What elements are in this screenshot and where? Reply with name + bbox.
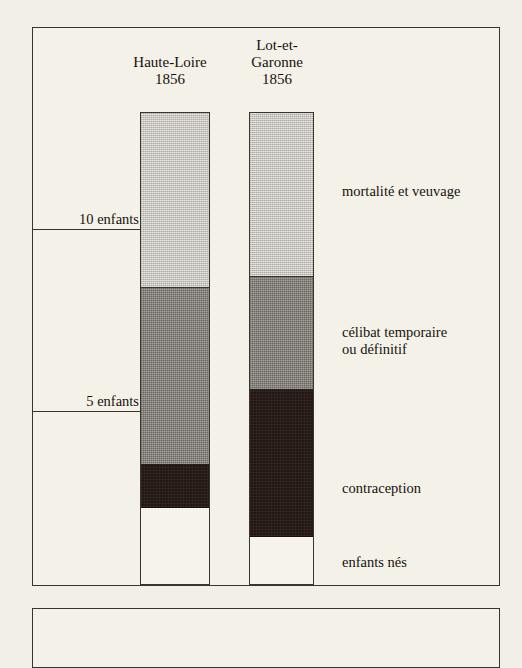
bar-segment-mortalite-lot-et-garonne[interactable] (250, 113, 313, 277)
column-header-haute-loire: Haute-Loire 1856 (114, 54, 226, 88)
caption-box (32, 608, 500, 668)
bar-segment-mortalite-haute-loire[interactable] (141, 113, 209, 288)
legend-label-mortalite: mortalité et veuvage (342, 183, 460, 200)
bar-segment-enfants-nes-lot-et-garonne[interactable] (250, 537, 313, 584)
column-header-lot-et-garonne: Lot-et- Garonne 1856 (221, 37, 333, 87)
bar-segment-celibat-lot-et-garonne[interactable] (250, 277, 313, 390)
y-axis-tick-5 (33, 411, 143, 412)
bar-segment-enfants-nes-haute-loire[interactable] (141, 508, 209, 584)
chart-figure-frame: Haute-Loire 1856 Lot-et- Garonne 1856 10… (32, 27, 500, 586)
y-axis-label-10-enfants: 10 enfants (33, 211, 139, 228)
y-axis-label-5-enfants: 5 enfants (33, 393, 139, 410)
stacked-bar-lot-et-garonne[interactable] (249, 112, 314, 585)
bar-segment-celibat-haute-loire[interactable] (141, 288, 209, 465)
legend-label-enfants-nes: enfants nés (342, 554, 407, 571)
y-axis-tick-10 (33, 229, 143, 230)
bar-segment-contraception-lot-et-garonne[interactable] (250, 390, 313, 537)
legend-label-celibat: célibat temporaire ou définitif (342, 324, 447, 358)
legend-label-contraception: contraception (342, 480, 421, 497)
bar-segment-contraception-haute-loire[interactable] (141, 465, 209, 508)
stacked-bar-haute-loire[interactable] (140, 112, 210, 585)
